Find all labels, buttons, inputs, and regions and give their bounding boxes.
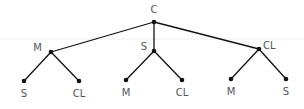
leaf-label: S xyxy=(21,88,27,99)
leaf-node xyxy=(77,79,82,84)
edge xyxy=(154,51,182,80)
tree-diagram: CMSCLSCLMCLMS xyxy=(0,0,304,109)
leaf-node xyxy=(180,78,185,83)
leaf-label: M xyxy=(227,86,236,97)
leaf-node xyxy=(124,78,129,83)
branch-label: CL xyxy=(263,40,276,51)
branch-label: S xyxy=(141,41,147,52)
edge xyxy=(24,52,51,81)
branch-node xyxy=(152,49,157,54)
edge xyxy=(51,22,154,52)
leaf-node xyxy=(229,77,234,82)
root-node xyxy=(152,20,157,25)
leaf-label: CL xyxy=(73,88,86,99)
leaf-node xyxy=(284,77,289,82)
branch-node xyxy=(257,47,262,52)
leaf-label: CL xyxy=(176,87,189,98)
leaf-label: S xyxy=(283,86,289,97)
edge xyxy=(126,51,154,80)
edge xyxy=(154,22,259,49)
branch-label: M xyxy=(33,42,42,53)
edge xyxy=(259,49,286,79)
root-label: C xyxy=(151,4,158,15)
tree-svg: CMSCLSCLMCLMS xyxy=(0,0,304,109)
leaf-node xyxy=(22,79,27,84)
edge xyxy=(51,52,79,81)
edge xyxy=(231,49,259,79)
leaf-label: M xyxy=(122,87,131,98)
branch-node xyxy=(49,50,54,55)
